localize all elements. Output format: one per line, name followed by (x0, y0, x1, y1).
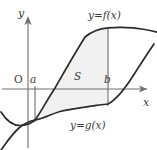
curve-f-label: y=f(x) (88, 10, 121, 21)
y-axis-label: y (18, 8, 24, 19)
integral-area-figure: y x O a b S y=f(x) y=g(x) (0, 0, 157, 150)
curve-g-label: y=g(x) (70, 120, 106, 131)
region-label-s: S (74, 71, 81, 82)
left-bound-label-a: a (30, 74, 36, 85)
x-axis-label: x (143, 97, 149, 108)
origin-label: O (14, 74, 23, 85)
right-bound-label-b: b (104, 74, 111, 85)
